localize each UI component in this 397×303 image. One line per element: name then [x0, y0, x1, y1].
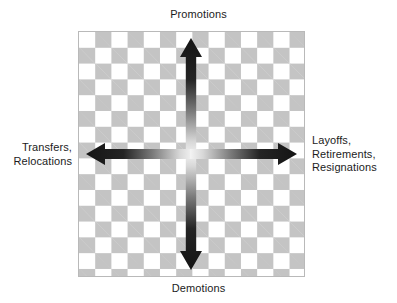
checkerboard-panel	[78, 31, 305, 277]
label-promotions: Promotions	[0, 8, 397, 22]
label-transfers-relocations: Transfers, Relocations	[0, 141, 72, 168]
label-demotions: Demotions	[0, 282, 397, 296]
up-arrow-icon	[180, 38, 202, 156]
down-arrow-icon	[180, 152, 202, 270]
right-arrow-icon	[190, 143, 297, 165]
career-movement-diagram: Promotions Transfers, Relocations Layoff…	[0, 0, 397, 303]
left-arrow-icon	[86, 143, 193, 165]
label-layoffs-retirements-resignations: Layoffs, Retirements, Resignations	[312, 134, 397, 175]
arrow-cross	[79, 32, 304, 276]
